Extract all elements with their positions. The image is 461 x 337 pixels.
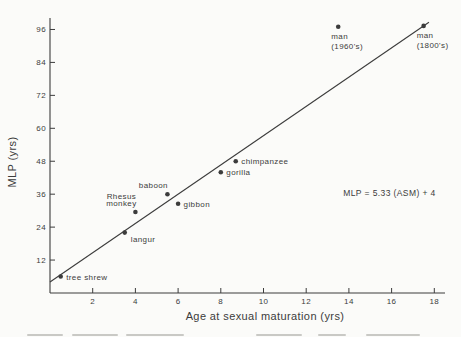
- x-tick-label: 10: [259, 297, 269, 306]
- cropped-caption-fragment: [366, 334, 420, 336]
- data-point-rhesus-monkey: [133, 210, 138, 215]
- point-label: langur: [131, 235, 156, 244]
- y-tick-label: 24: [36, 223, 46, 232]
- data-point-gibbon: [176, 201, 181, 206]
- point-label: gibbon: [184, 200, 210, 209]
- mlp-vs-asm-scatter-plot: 246810121416181224364860728496MLP = 5.33…: [0, 0, 461, 337]
- y-tick-label: 48: [36, 157, 46, 166]
- data-point-baboon: [165, 192, 170, 197]
- point-label: (1960's): [331, 42, 363, 51]
- cropped-caption-fragment: [318, 334, 346, 336]
- point-label: gorilla: [226, 168, 250, 177]
- x-tick-label: 16: [387, 297, 397, 306]
- point-label: baboon: [139, 181, 168, 190]
- data-point-man-1960-s-: [336, 24, 341, 29]
- cropped-caption-fragment: [256, 334, 302, 336]
- y-tick-label: 36: [36, 190, 46, 199]
- point-label: chimpanzee: [241, 157, 288, 166]
- x-tick-label: 8: [218, 297, 223, 306]
- point-label: monkey: [106, 199, 136, 208]
- x-tick-label: 12: [301, 297, 311, 306]
- data-point-langur: [122, 230, 127, 235]
- data-point-tree-shrew: [58, 274, 63, 279]
- x-tick-label: 18: [429, 297, 439, 306]
- y-tick-label: 72: [36, 91, 46, 100]
- y-axis-title: MLP (yrs): [6, 136, 18, 187]
- point-label: man: [417, 31, 434, 40]
- x-tick-label: 4: [133, 297, 138, 306]
- x-tick-label: 6: [176, 297, 181, 306]
- x-axis-title: Age at sexual maturation (yrs): [186, 310, 345, 322]
- y-tick-label: 96: [36, 25, 46, 34]
- point-label: (1800's): [417, 41, 449, 50]
- y-tick-label: 12: [36, 256, 46, 265]
- regression-line: [50, 22, 429, 282]
- data-point-gorilla: [219, 170, 224, 175]
- data-point-man-1800-s-: [421, 24, 426, 29]
- x-tick-label: 2: [90, 297, 95, 306]
- y-tick-label: 60: [36, 124, 46, 133]
- cropped-caption-fragment: [27, 334, 63, 336]
- data-point-chimpanzee: [233, 159, 238, 164]
- cropped-caption-fragment: [72, 334, 118, 336]
- cropped-caption-fragment: [126, 334, 184, 336]
- point-label: tree shrew: [66, 273, 107, 282]
- x-tick-label: 14: [344, 297, 354, 306]
- equation-annotation: MLP = 5.33 (ASM) + 4: [343, 188, 435, 198]
- scatter-plot-figure: 246810121416181224364860728496MLP = 5.33…: [0, 0, 461, 337]
- y-tick-label: 84: [36, 58, 46, 67]
- point-label: man: [331, 32, 348, 41]
